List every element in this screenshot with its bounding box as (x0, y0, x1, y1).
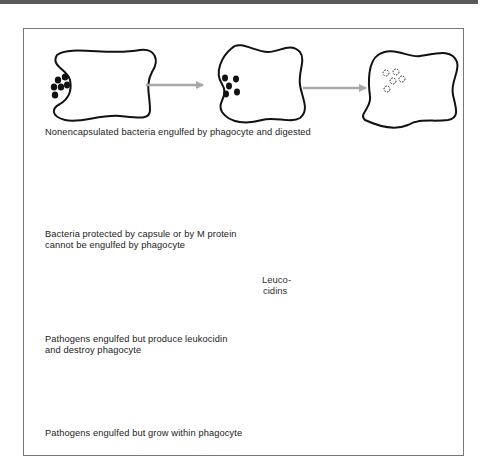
row-4-caption: Pathogens engulfed but grow within phago… (45, 428, 242, 439)
row-3-caption-line-2: and destroy phagocyte (45, 345, 141, 356)
row-2-caption-line-2: cannot be engulfed by phagocyte (45, 240, 185, 251)
row-1-caption: Nonencapsulated bacteria engulfed by pha… (45, 127, 311, 138)
leucocidins-label-line-1: Leuco- (262, 274, 291, 285)
bacteria-cluster (51, 73, 70, 98)
row-1-stage-2-phagocyte (219, 45, 305, 122)
digested-bacteria (383, 69, 405, 92)
row-2-caption-line-1: Bacteria protected by capsule or by M pr… (45, 229, 237, 240)
leucocidins-label-line-2: cidins (263, 285, 287, 296)
row-3-caption-line-1: Pathogens engulfed but produce leukocidi… (45, 334, 227, 345)
row-1-stage-3-phagocyte (363, 51, 458, 128)
row-1-stage-1-phagocyte (51, 50, 156, 121)
